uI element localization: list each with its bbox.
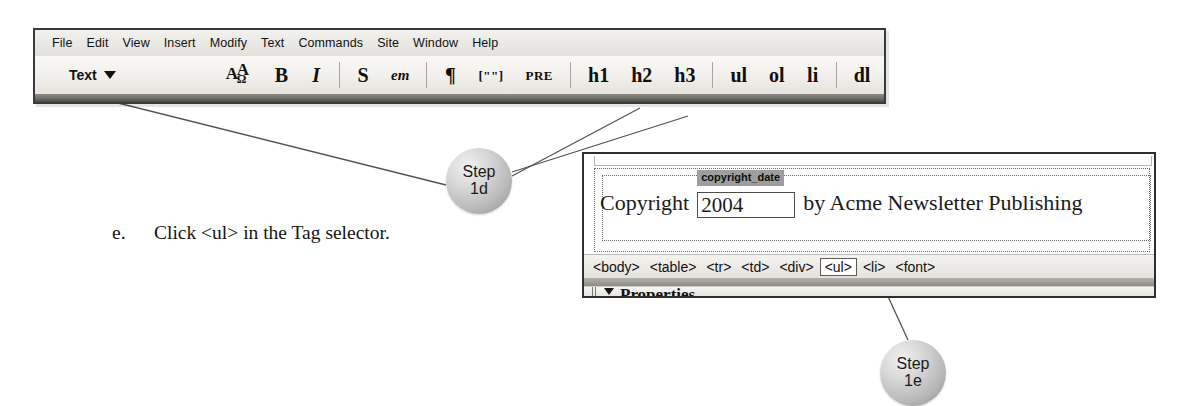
menu-item-file[interactable]: File — [45, 35, 80, 52]
tag-selector-item-font[interactable]: <font> — [890, 259, 940, 275]
text-format-dropdown-label: Text — [69, 67, 97, 83]
copyright-suffix-text: by Acme Newsletter Publishing — [803, 190, 1082, 216]
tag-selector-item-div[interactable]: <div> — [774, 259, 818, 275]
instruction-text: Click <ul> in the Tag selector. — [154, 222, 390, 243]
instruction-marker: e. — [112, 222, 154, 244]
toolbar-separator-3 — [570, 62, 571, 88]
menu-bar: File Edit View Insert Modify Text Comman… — [35, 30, 884, 57]
copyright-line: Copyright copyright_date 2004 by Acme Ne… — [600, 190, 1082, 218]
menu-item-site[interactable]: Site — [370, 35, 406, 52]
tag-selector-bar: <body> <table> <tr> <td> <div> <ul> <li>… — [584, 254, 1154, 279]
copyright-date-field-wrapper: copyright_date 2004 — [697, 190, 795, 218]
toolbar-button-group: A A Ω B I S em ¶ [""] PRE h1 h2 h3 ul — [226, 62, 882, 88]
callout-step-1d-line1: Step — [463, 164, 496, 181]
menu-item-edit[interactable]: Edit — [80, 35, 116, 52]
callout-step-1d-line2: 1d — [470, 181, 488, 198]
definition-list-button[interactable]: dl — [843, 65, 882, 85]
properties-panel-label: Properties — [620, 286, 695, 296]
toolbar-separator-2 — [426, 62, 427, 88]
ordered-list-button[interactable]: ol — [758, 65, 796, 85]
copyright-date-input[interactable]: 2004 — [697, 192, 795, 218]
text-toolbar-panel: File Edit View Insert Modify Text Comman… — [33, 28, 886, 104]
menu-item-modify[interactable]: Modify — [203, 35, 254, 52]
callout-step-1e-line2: 1e — [904, 373, 922, 390]
tag-selector-item-ul[interactable]: <ul> — [820, 258, 857, 276]
menu-item-help[interactable]: Help — [465, 35, 505, 52]
list-item-button[interactable]: li — [796, 65, 830, 85]
document-scroll-cap — [594, 156, 1152, 166]
copyright-date-field-label: copyright_date — [697, 170, 784, 186]
toolbar-separator-1 — [339, 62, 340, 88]
leader-line-text-dropdown — [74, 92, 446, 185]
menu-item-view[interactable]: View — [116, 35, 157, 52]
toolbar-separator-5 — [836, 62, 837, 88]
copyright-prefix-text: Copyright — [600, 190, 689, 216]
menu-item-insert[interactable]: Insert — [157, 35, 203, 52]
unordered-list-button[interactable]: ul — [719, 65, 758, 85]
panel-divider — [584, 278, 1154, 286]
drag-grip-icon[interactable] — [592, 286, 598, 296]
tag-selector-item-li[interactable]: <li> — [858, 259, 891, 275]
tag-selector-item-table[interactable]: <table> — [645, 259, 702, 275]
tag-selector-item-body[interactable]: <body> — [588, 259, 645, 275]
menu-item-window[interactable]: Window — [406, 35, 465, 52]
callout-step-1e: Step 1e — [880, 340, 946, 406]
paragraph-button[interactable]: ¶ — [433, 65, 467, 85]
heading-3-button[interactable]: h3 — [663, 65, 706, 85]
text-toolbar-strip: Text A A Ω B I S em ¶ [""] PRE — [35, 56, 884, 94]
chevron-down-icon — [104, 71, 116, 79]
bold-button[interactable]: B — [264, 65, 299, 85]
blockquote-button[interactable]: [""] — [467, 69, 514, 82]
panel-bottom-shadow — [35, 94, 884, 102]
italic-button[interactable]: I — [299, 65, 333, 85]
instruction-step-e: e.Click <ul> in the Tag selector. — [112, 222, 390, 244]
heading-2-button[interactable]: h2 — [620, 65, 663, 85]
toolbar-separator-4 — [712, 62, 713, 88]
document-window-panel: Copyright copyright_date 2004 by Acme Ne… — [582, 152, 1156, 298]
text-format-dropdown[interactable]: Text — [69, 67, 116, 83]
tag-selector-item-tr[interactable]: <tr> — [701, 259, 736, 275]
callout-step-1d: Step 1d — [446, 148, 512, 214]
special-characters-button[interactable]: A A Ω — [226, 62, 264, 88]
triangle-down-icon[interactable] — [604, 288, 614, 295]
emphasis-button[interactable]: em — [380, 68, 420, 83]
special-characters-glyph-omega: Ω — [237, 73, 247, 85]
menu-item-text[interactable]: Text — [254, 35, 291, 52]
strong-button[interactable]: S — [346, 65, 380, 85]
callout-step-1e-line1: Step — [897, 356, 930, 373]
heading-1-button[interactable]: h1 — [577, 65, 620, 85]
properties-panel-header[interactable]: Properties — [584, 286, 1154, 296]
menu-item-commands[interactable]: Commands — [291, 35, 370, 52]
tag-selector-item-td[interactable]: <td> — [736, 259, 774, 275]
preformatted-button[interactable]: PRE — [515, 69, 565, 82]
